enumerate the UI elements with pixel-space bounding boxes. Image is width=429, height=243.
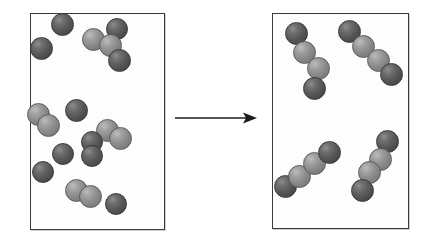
reaction-arrow: [175, 107, 257, 129]
figure-canvas: [0, 0, 429, 243]
reactants-box: [30, 13, 165, 230]
products-box: [272, 13, 409, 229]
